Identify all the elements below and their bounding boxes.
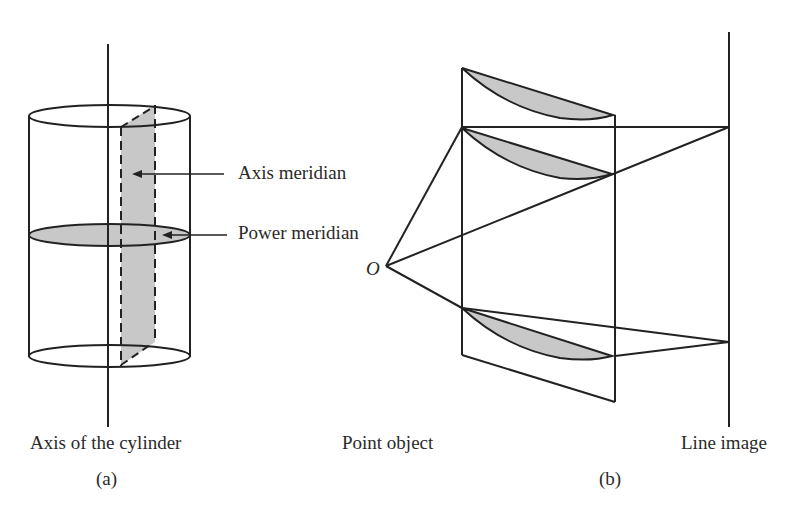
label-power-meridian: Power meridian: [238, 222, 359, 244]
caption-b: (b): [599, 468, 621, 490]
ray-o-to-top: [386, 127, 462, 266]
label-axis-of-cylinder: Axis of the cylinder: [30, 432, 181, 454]
lens-bottom-edge: [462, 355, 615, 402]
label-point-object: Point object: [342, 432, 433, 454]
panel-b-lens: [386, 32, 729, 427]
cylinder-top-ellipse: [29, 105, 190, 127]
label-axis-meridian: Axis meridian: [238, 162, 346, 184]
ray-o-to-bottom: [386, 266, 462, 308]
cylinder-bottom-ellipse: [29, 345, 190, 367]
label-origin-o: O: [366, 258, 380, 280]
ray-lens-bottom-to-image: [615, 342, 729, 356]
lens-crescent-bottom: [462, 308, 612, 360]
ray-o-to-upper-right: [386, 127, 729, 266]
caption-a: (a): [96, 468, 117, 490]
label-line-image: Line image: [681, 432, 767, 454]
lens-crescent-middle: [462, 128, 612, 179]
lens-crescent-top: [462, 68, 613, 119]
panel-a-cylinder: [29, 44, 227, 427]
